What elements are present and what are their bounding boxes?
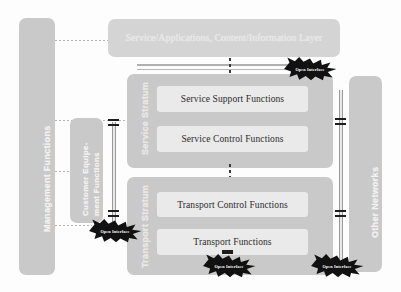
connector-mark-other-bottom — [335, 210, 346, 217]
management-functions-panel[interactable]: Management Functions — [19, 18, 55, 275]
open-interface-label: Open Interface — [214, 264, 243, 269]
connector-mark-customer-top — [108, 119, 119, 126]
open-interface-label: Open Interface — [322, 264, 351, 269]
open-interface-customer-transport[interactable]: Open Interface — [88, 219, 142, 243]
service-support-functions-box[interactable]: Service Support Functions — [157, 86, 308, 112]
open-interface-label: Open Interface — [100, 229, 129, 234]
transport-functions-label: Transport Functions — [193, 237, 271, 247]
connector-customer-vertical — [112, 122, 116, 222]
management-link-transport — [55, 225, 92, 226]
customer-equipment-functions-panel[interactable]: Customer Equipe- ment Functions — [70, 118, 103, 223]
customer-equipment-functions-label-line2: ment Functions — [92, 152, 101, 216]
other-networks-panel[interactable]: Other Networks — [349, 76, 382, 272]
open-interface-label: Open Interface — [295, 67, 324, 72]
open-interface-transport-bottom[interactable]: Open Interface — [202, 254, 256, 278]
service-stratum-label: Service Stratum — [140, 82, 150, 155]
connector-mark-customer-bottom — [108, 210, 119, 217]
service-applications-layer-label: Service/Applications, Content/Informatio… — [108, 32, 340, 43]
connector-mark-other-top — [335, 118, 346, 125]
ngn-architecture-diagram: Management Functions Service/Application… — [0, 0, 401, 292]
service-applications-layer[interactable]: Service/Applications, Content/Informatio… — [108, 19, 340, 57]
other-networks-label: Other Networks — [370, 167, 380, 238]
transport-control-functions-label: Transport Control Functions — [177, 200, 288, 210]
transport-control-functions-box[interactable]: Transport Control Functions — [157, 192, 308, 217]
management-functions-label: Management Functions — [42, 125, 52, 232]
service-control-functions-box[interactable]: Service Control Functions — [157, 126, 308, 152]
customer-equipment-functions-label-line1: Customer Equipe- — [81, 142, 90, 216]
management-link-top — [55, 40, 108, 41]
connector-service-to-transport — [229, 164, 231, 178]
service-support-functions-label: Service Support Functions — [181, 94, 284, 104]
open-interface-other-networks[interactable]: Open Interface — [310, 254, 364, 278]
connector-other-networks-vertical — [339, 90, 343, 265]
service-control-functions-label: Service Control Functions — [181, 134, 283, 144]
open-interface-service-top[interactable]: Open Interface — [283, 57, 337, 81]
